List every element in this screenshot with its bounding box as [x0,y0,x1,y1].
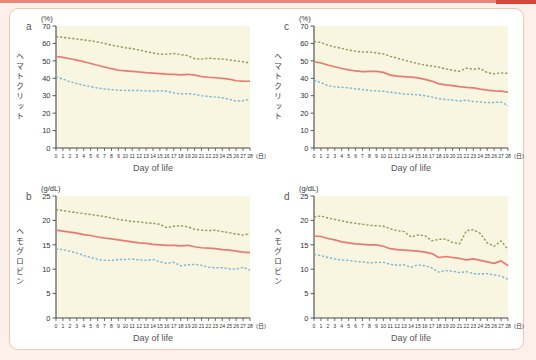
svg-text:10: 10 [42,126,50,135]
figure-card: a (%) ヘマトクリット 01020304050607001234567891… [9,8,524,350]
svg-text:0: 0 [304,144,308,153]
panel-a: a (%) ヘマトクリット 01020304050607001234567891… [10,10,268,180]
svg-text:2: 2 [326,323,329,329]
svg-text:26: 26 [491,153,497,159]
svg-text:16: 16 [164,153,170,159]
svg-text:0: 0 [55,153,58,159]
svg-text:20: 20 [450,153,456,159]
svg-text:9: 9 [375,153,378,159]
panel-letter-a: a [26,21,32,32]
svg-text:7: 7 [361,323,364,329]
svg-text:0: 0 [55,323,58,329]
svg-text:12: 12 [394,153,400,159]
svg-text:12: 12 [136,323,142,329]
svg-text:27: 27 [498,153,504,159]
svg-text:8: 8 [110,153,113,159]
svg-text:15: 15 [415,323,421,329]
svg-text:4: 4 [340,323,343,329]
svg-text:10: 10 [42,265,50,274]
svg-text:22: 22 [206,153,212,159]
y-axis-unit-b: (g/dL) [41,184,61,193]
svg-text:30: 30 [42,91,50,100]
svg-text:1: 1 [320,153,323,159]
svg-text:17: 17 [429,153,435,159]
svg-text:5: 5 [304,289,308,298]
svg-text:18: 18 [178,323,184,329]
svg-text:9: 9 [117,323,120,329]
svg-text:0: 0 [313,153,316,159]
svg-text:10: 10 [300,265,308,274]
svg-text:10: 10 [380,323,386,329]
svg-text:20: 20 [192,323,198,329]
svg-text:27: 27 [240,323,246,329]
svg-text:10: 10 [122,153,128,159]
svg-text:60: 60 [300,39,308,48]
svg-text:20: 20 [300,109,308,118]
svg-text:13: 13 [401,153,407,159]
svg-text:16: 16 [422,323,428,329]
chart-hemoglobin-d: 0510152025012345678910111213141516171819… [268,180,526,350]
svg-text:28: 28 [247,323,253,329]
svg-text:14: 14 [150,153,156,159]
y-axis-unit-d: (g/dL) [299,184,319,193]
svg-text:Day of life: Day of life [391,333,431,343]
svg-text:20: 20 [300,216,308,225]
svg-text:8: 8 [368,323,371,329]
svg-text:19: 19 [185,153,191,159]
svg-text:6: 6 [96,153,99,159]
svg-text:(日): (日) [256,323,266,330]
panel-letter-c: c [284,21,289,32]
svg-text:14: 14 [150,323,156,329]
svg-text:6: 6 [354,153,357,159]
svg-text:4: 4 [82,323,85,329]
svg-text:0: 0 [304,314,308,323]
svg-text:20: 20 [42,216,50,225]
chart-hematocrit-a: 0102030405060700123456789101112131415161… [10,10,268,180]
svg-text:22: 22 [464,323,470,329]
svg-text:10: 10 [380,153,386,159]
svg-text:24: 24 [219,323,225,329]
svg-text:18: 18 [436,153,442,159]
svg-text:70: 70 [300,22,308,31]
svg-text:17: 17 [429,323,435,329]
svg-text:2: 2 [326,153,329,159]
svg-text:20: 20 [450,323,456,329]
svg-text:11: 11 [130,323,135,329]
svg-text:25: 25 [42,192,50,201]
svg-text:18: 18 [436,323,442,329]
svg-text:17: 17 [171,153,177,159]
svg-text:25: 25 [226,153,232,159]
svg-text:Day of life: Day of life [133,163,173,173]
svg-text:11: 11 [388,153,393,159]
svg-text:3: 3 [75,153,78,159]
svg-text:6: 6 [96,323,99,329]
svg-text:10: 10 [300,126,308,135]
svg-text:21: 21 [199,153,205,159]
svg-text:13: 13 [143,323,149,329]
svg-text:9: 9 [117,153,120,159]
svg-text:13: 13 [143,153,149,159]
svg-text:19: 19 [185,323,191,329]
svg-text:3: 3 [75,323,78,329]
svg-text:7: 7 [103,323,106,329]
y-axis-title-hematocrit: ヘマトクリット [14,52,22,122]
chart-hemoglobin-b: 0510152025012345678910111213141516171819… [10,180,268,350]
svg-text:12: 12 [136,153,142,159]
svg-text:26: 26 [233,153,239,159]
svg-text:25: 25 [226,323,232,329]
svg-text:11: 11 [388,323,393,329]
y-axis-unit-c: (%) [299,14,311,23]
svg-text:2: 2 [68,323,71,329]
y-axis-unit-a: (%) [41,14,53,23]
svg-text:6: 6 [354,323,357,329]
svg-text:5: 5 [89,153,92,159]
svg-text:15: 15 [157,323,163,329]
y-axis-title-hemoglobin: ヘモグロビン [272,227,280,287]
svg-text:22: 22 [464,153,470,159]
svg-text:24: 24 [219,153,225,159]
svg-text:0: 0 [46,314,50,323]
svg-text:28: 28 [505,323,511,329]
svg-text:27: 27 [498,323,504,329]
svg-text:60: 60 [42,39,50,48]
svg-text:26: 26 [233,323,239,329]
